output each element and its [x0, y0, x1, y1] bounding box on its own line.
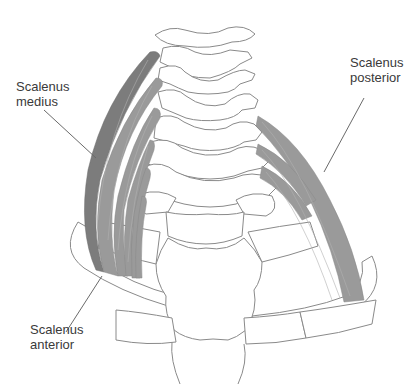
cervical-vertebrae	[137, 27, 276, 244]
label-posterior-line1: Scalenus	[350, 55, 403, 70]
leader-line-medius	[44, 110, 96, 158]
label-scalenus-anterior: Scalenus anterior	[30, 322, 83, 352]
label-scalenus-posterior: Scalenus posterior	[350, 55, 403, 85]
label-posterior-line2: posterior	[350, 70, 403, 85]
label-medius-line1: Scalenus	[16, 79, 69, 94]
label-medius-line2: medius	[16, 94, 69, 109]
label-scalenus-medius: Scalenus medius	[16, 79, 69, 109]
leader-line-posterior	[324, 98, 364, 172]
label-anterior-line1: Scalenus	[30, 322, 83, 337]
label-anterior-line2: anterior	[30, 337, 83, 352]
scalene-muscles-diagram: Scalenus medius Scalenus posterior Scale…	[0, 0, 413, 384]
